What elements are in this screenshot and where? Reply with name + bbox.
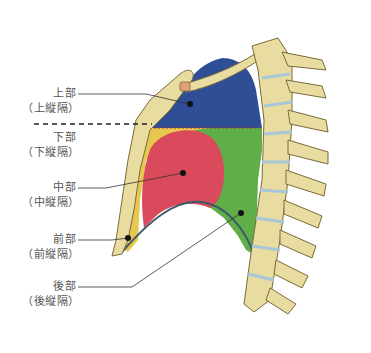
label-inferior-name: 下部: [53, 131, 76, 144]
label-posterior-sub: （後縦隔）: [22, 294, 76, 309]
anterior-marker: [125, 235, 131, 241]
superior-marker: [187, 101, 193, 107]
label-middle: 中部 （中縦隔）: [22, 180, 76, 210]
mediastinum-diagram: 上部 （上縦隔） 下部 （下縦隔） 中部 （中縦隔） 前部 （前縦隔） 後部 （…: [0, 0, 371, 353]
label-superior-name: 上部: [53, 87, 76, 100]
label-inferior-sub: （下縦隔）: [22, 145, 76, 160]
label-middle-sub: （中縦隔）: [22, 195, 76, 210]
label-middle-name: 中部: [53, 181, 76, 194]
label-anterior-name: 前部: [53, 233, 76, 246]
middle-marker: [180, 170, 186, 176]
label-anterior: 前部 （前縦隔）: [22, 232, 76, 262]
label-posterior-name: 後部: [53, 280, 76, 293]
label-anterior-sub: （前縦隔）: [22, 247, 76, 262]
posterior-marker: [238, 210, 244, 216]
label-superior: 上部 （上縦隔）: [22, 86, 76, 116]
middle-mediastinum-region: [142, 130, 224, 228]
label-posterior: 後部 （後縦隔）: [22, 279, 76, 309]
label-superior-sub: （上縦隔）: [22, 101, 76, 116]
label-inferior: 下部 （下縦隔）: [22, 130, 76, 160]
